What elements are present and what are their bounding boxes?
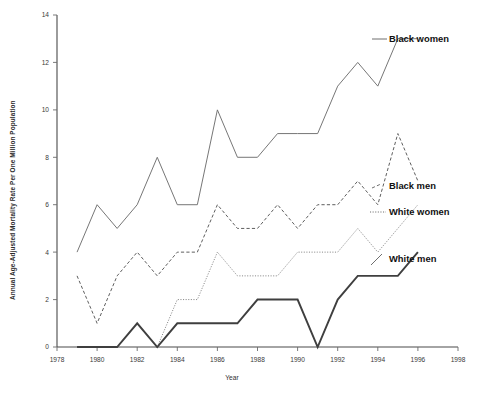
y-tick-label: 12 — [42, 59, 50, 66]
legend-label-white-women: White women — [389, 206, 450, 217]
y-tick-label: 2 — [45, 296, 49, 303]
x-tick-label: 1986 — [210, 356, 225, 363]
y-tick-label: 0 — [45, 343, 49, 350]
y-tick-label: 14 — [42, 11, 50, 18]
line-chart: Annual Age-Adjusted Mortality Rate Per O… — [0, 0, 481, 393]
x-tick-label: 1996 — [411, 356, 426, 363]
x-tick-label: 1990 — [290, 356, 305, 363]
y-tick-label: 4 — [45, 249, 49, 256]
legend-label-black-men: Black men — [389, 180, 436, 191]
x-tick-label: 1992 — [330, 356, 345, 363]
y-tick-label: 8 — [45, 154, 49, 161]
x-axis-title: Year — [225, 374, 239, 381]
x-axis-tick-labels: 1978 1980 1982 1984 1986 1988 1990 1992 … — [50, 356, 466, 363]
x-tick-label: 1978 — [50, 356, 65, 363]
y-axis-tick-labels: 0 2 4 6 8 10 12 14 — [42, 11, 50, 350]
series-line-white-men — [77, 252, 418, 347]
series-line-black-women — [77, 39, 418, 252]
legend-label-white-men: White men — [389, 253, 437, 264]
x-tick-label: 1998 — [451, 356, 466, 363]
y-axis-title: Annual Age-Adjusted Mortality Rate Per O… — [9, 100, 17, 300]
x-tick-label: 1984 — [170, 356, 185, 363]
y-axis-ticks — [53, 15, 57, 347]
legend-leader-black-men — [372, 184, 381, 188]
x-tick-label: 1994 — [370, 356, 385, 363]
x-tick-label: 1982 — [130, 356, 145, 363]
y-tick-label: 6 — [45, 201, 49, 208]
legend-leader-white-men — [371, 254, 382, 265]
x-tick-label: 1988 — [250, 356, 265, 363]
y-tick-label: 10 — [42, 106, 50, 113]
x-tick-label: 1980 — [90, 356, 105, 363]
series-line-black-men — [77, 134, 418, 324]
legend-label-black-women: Black women — [389, 33, 449, 44]
chart-page: Annual Age-Adjusted Mortality Rate Per O… — [0, 0, 481, 393]
